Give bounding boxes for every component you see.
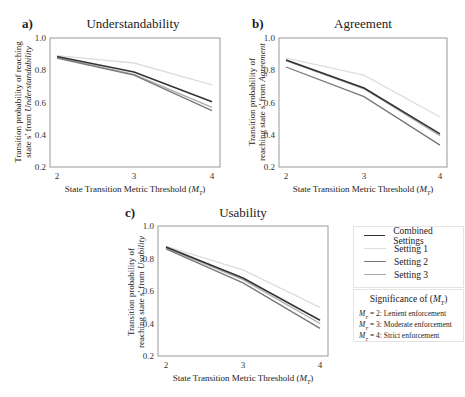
series-line-setting-1 xyxy=(166,246,320,307)
y-tick-label: 0.2 xyxy=(143,351,154,361)
significance-row-2: MT = 2: Lenient enforcement xyxy=(354,308,463,319)
series-line-setting-2 xyxy=(166,249,320,329)
significance-box: Significance of (MT) MT = 2: Lenient enf… xyxy=(353,289,464,342)
legend-swatch-combined xyxy=(364,235,385,236)
legend-item-combined: Combined Settings xyxy=(354,229,463,242)
legend: Combined Settings Setting 1 Setting 2 Se… xyxy=(353,226,464,288)
legend-label: Setting 1 xyxy=(394,244,428,254)
x-axis-label-c: State Transition Metric Threshold (MT) xyxy=(158,373,328,385)
legend-swatch-setting-3 xyxy=(364,274,386,275)
significance-text: : Moderate enforcement xyxy=(380,320,452,329)
y-tick-label: 1.0 xyxy=(143,221,155,231)
legend-label: Setting 2 xyxy=(394,257,428,267)
significance-text: : Lenient enforcement xyxy=(380,309,446,318)
significance-title: Significance of (MT) xyxy=(354,294,463,306)
legend-item-setting-3: Setting 3 xyxy=(354,268,463,281)
x-tick-label: 4 xyxy=(318,360,323,370)
significance-row-3: MT = 3: Moderate enforcement xyxy=(354,319,463,330)
legend-label: Combined Settings xyxy=(393,226,463,246)
legend-item-setting-2: Setting 2 xyxy=(354,255,463,268)
y-tick-label: 0.4 xyxy=(143,319,155,329)
legend-swatch-setting-2 xyxy=(364,261,386,262)
legend-swatch-setting-1 xyxy=(364,248,386,249)
significance-row-4: MT = 4: Strict enforcement xyxy=(354,330,463,341)
y-tick-label: 0.6 xyxy=(143,286,155,296)
x-tick-label: 3 xyxy=(241,360,246,370)
x-tick-label: 2 xyxy=(164,360,169,370)
y-tick-label: 0.8 xyxy=(143,254,155,264)
plot-frame xyxy=(158,226,328,356)
significance-text: : Strict enforcement xyxy=(380,331,440,340)
legend-label: Setting 3 xyxy=(394,270,428,280)
